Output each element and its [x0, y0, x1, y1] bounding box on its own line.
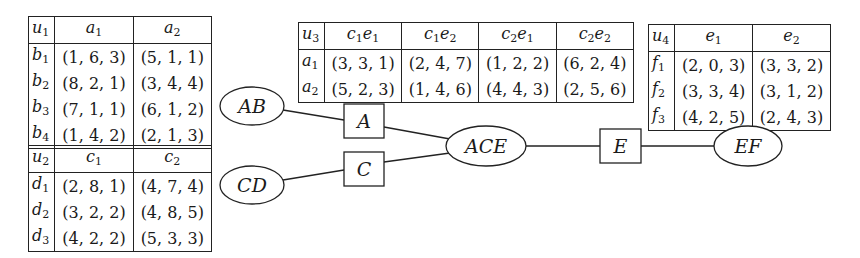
- factor-label: E: [613, 135, 628, 157]
- node-ef: EF: [714, 126, 782, 166]
- node-label: ACE: [463, 135, 507, 157]
- factor-a: A: [344, 104, 384, 138]
- node-label: AB: [236, 95, 266, 117]
- node-cd: CD: [220, 166, 284, 204]
- node-label: EF: [733, 135, 762, 157]
- factor-label: A: [355, 110, 371, 132]
- edge-c-ace: [384, 153, 450, 162]
- edge-a-ace: [384, 127, 450, 139]
- factor-graph: ABCDACEEF ACE: [0, 0, 860, 258]
- factor-c: C: [344, 152, 384, 186]
- edge-cd-c: [283, 170, 344, 180]
- node-ab: AB: [220, 87, 284, 125]
- factor-label: C: [357, 158, 372, 180]
- edge-ab-a: [283, 110, 344, 120]
- node-ace: ACE: [446, 126, 526, 166]
- factor-e: E: [600, 129, 641, 163]
- node-label: CD: [237, 174, 267, 196]
